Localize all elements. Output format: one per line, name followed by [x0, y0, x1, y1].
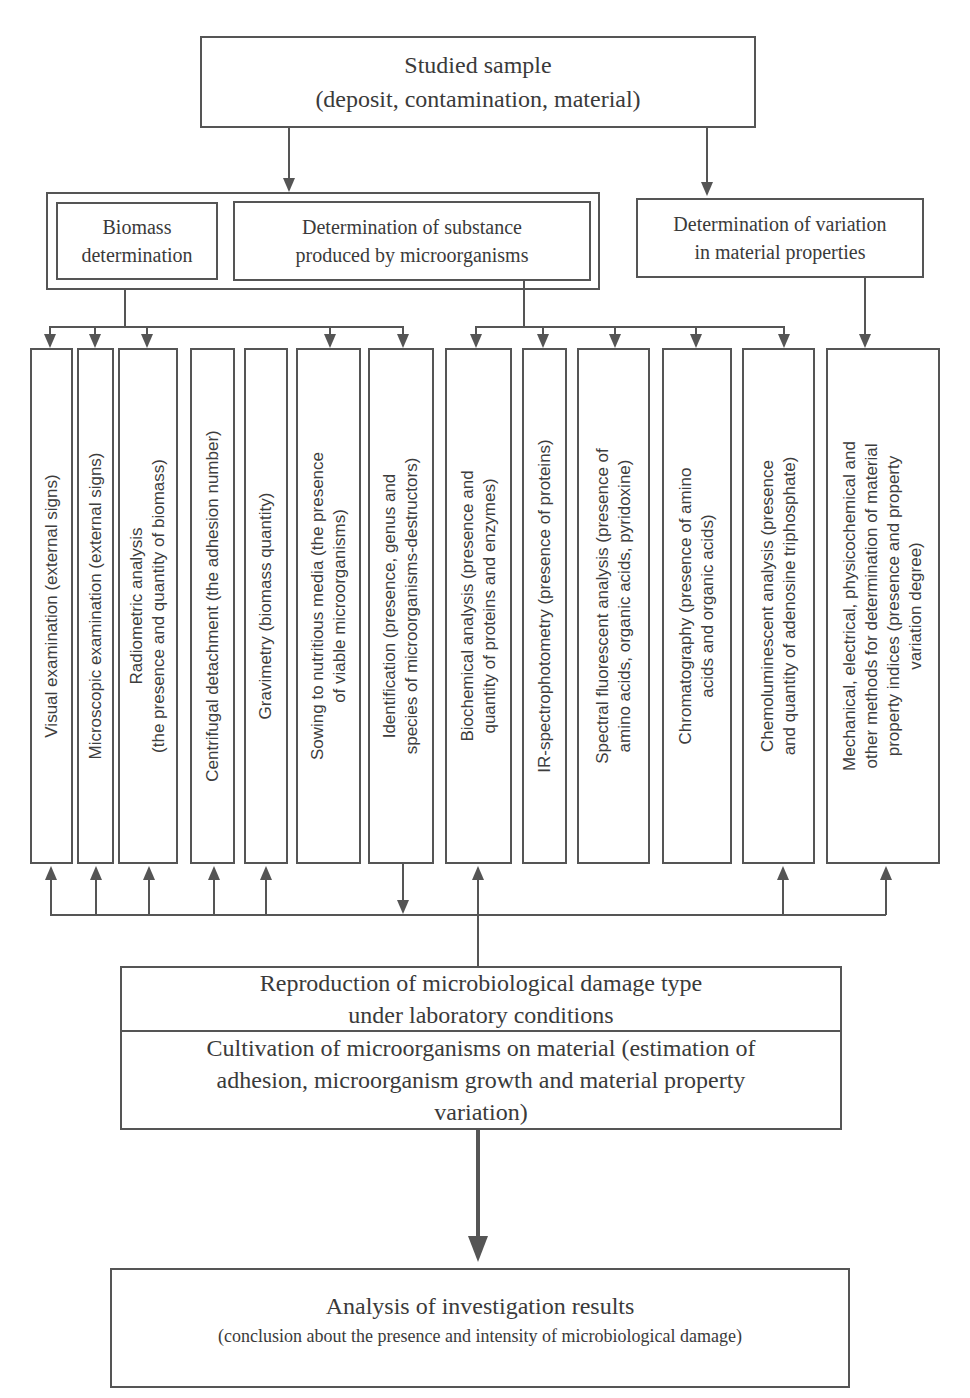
method-radiometric-analysis: Radiometric analysis (the presence and q… [118, 348, 178, 864]
arrow-down-icon [609, 334, 621, 348]
arrow-up-icon [45, 866, 57, 880]
connector [49, 326, 404, 328]
studied-sample-box: Studied sample (deposit, contamination, … [200, 36, 756, 128]
method-label: Radiometric analysis (the presence and q… [126, 356, 170, 856]
method-label: Visual examination (external signs) [41, 356, 63, 856]
arrow-down-icon [537, 334, 549, 348]
method-centrifugal-detachment: Centrifugal detachment (the adhesion num… [190, 348, 235, 864]
method-label: Identification (presence, genus and spec… [379, 356, 423, 856]
variation-determination-box: Determination of variation in material p… [636, 198, 924, 278]
biomass-determination-label: Biomass determination [81, 213, 192, 269]
method-chromatography: Chromatography (presence of amino acids … [662, 348, 732, 864]
arrow-down-icon [44, 334, 56, 348]
connector [288, 128, 290, 178]
arrow-down-icon [778, 334, 790, 348]
method-label: IR-spectrophotometry (presence of protei… [534, 356, 556, 856]
arrow-up-icon [260, 866, 272, 880]
method-label: Chromatography (presence of amino acids … [675, 356, 719, 856]
connector [475, 326, 785, 328]
connector [476, 1130, 480, 1242]
arrow-up-icon [90, 866, 102, 880]
reproduction-box: Reproduction of microbiological damage t… [120, 966, 842, 1032]
method-mechanical-electrical: Mechanical, electrical, physicochemical … [826, 348, 940, 864]
method-chemoluminescent: Chemoluminescent analysis (presence and … [742, 348, 815, 864]
method-label: Biochemical analysis (presence and quant… [457, 356, 501, 856]
method-spectral-fluorescent: Spectral fluorescent analysis (presence … [577, 348, 650, 864]
arrow-down-icon [89, 334, 101, 348]
connector [885, 878, 887, 915]
arrow-down-icon [324, 334, 336, 348]
method-label: Centrifugal detachment (the adhesion num… [202, 356, 224, 856]
method-label: Mechanical, electrical, physicochemical … [839, 356, 927, 856]
arrow-up-icon [208, 866, 220, 880]
cultivation-box: Cultivation of microorganisms on materia… [120, 1030, 842, 1130]
method-label: Gravimetry (biomass quantity) [255, 356, 277, 856]
arrow-down-icon [141, 334, 153, 348]
method-sowing-nutritious-media: Sowing to nutritious media (the presence… [296, 348, 361, 864]
variation-determination-label: Determination of variation in material p… [673, 210, 886, 266]
cultivation-label: Cultivation of microorganisms on materia… [207, 1032, 756, 1128]
arrow-down-icon [470, 334, 482, 348]
analysis-results-subtitle: (conclusion about the presence and inten… [218, 1323, 742, 1349]
connector [706, 128, 708, 182]
method-identification: Identification (presence, genus and spec… [368, 348, 434, 864]
arrow-up-icon [472, 866, 484, 880]
method-label: Microscopic examination (external signs) [85, 356, 107, 856]
studied-sample-subtitle: (deposit, contamination, material) [315, 82, 640, 116]
method-label: Spectral fluorescent analysis (presence … [592, 356, 636, 856]
connector [782, 878, 784, 915]
connector [402, 864, 404, 900]
connector [265, 878, 267, 915]
method-biochemical-analysis: Biochemical analysis (presence and quant… [445, 348, 512, 864]
method-ir-spectrophotometry: IR-spectrophotometry (presence of protei… [522, 348, 567, 864]
reproduction-label: Reproduction of microbiological damage t… [260, 967, 703, 1031]
connector [50, 878, 52, 915]
arrow-down-icon [468, 1236, 488, 1262]
arrow-down-icon [690, 334, 702, 348]
arrow-down-icon [397, 334, 409, 348]
arrow-down-icon [859, 334, 871, 348]
connector [864, 278, 866, 334]
analysis-results-box: Analysis of investigation results (concl… [110, 1268, 850, 1388]
arrow-down-icon [283, 178, 295, 192]
connector [124, 290, 126, 328]
connector [477, 878, 479, 966]
substance-determination-label: Determination of substance produced by m… [296, 213, 529, 269]
method-label: Chemoluminescent analysis (presence and … [757, 356, 801, 856]
connector [523, 281, 525, 328]
method-gravimetry: Gravimetry (biomass quantity) [244, 348, 288, 864]
feedback-bus [50, 914, 886, 916]
biomass-determination-box: Biomass determination [56, 202, 218, 280]
studied-sample-title: Studied sample [404, 48, 551, 82]
method-label: Sowing to nutritious media (the presence… [307, 356, 351, 856]
connector [148, 878, 150, 915]
arrow-up-icon [880, 866, 892, 880]
method-microscopic-examination: Microscopic examination (external signs) [77, 348, 114, 864]
connector [95, 878, 97, 915]
analysis-results-title: Analysis of investigation results [326, 1289, 635, 1323]
arrow-up-icon [143, 866, 155, 880]
method-visual-examination: Visual examination (external signs) [30, 348, 73, 864]
arrow-up-icon [777, 866, 789, 880]
substance-determination-box: Determination of substance produced by m… [233, 201, 591, 281]
arrow-down-icon [397, 900, 409, 914]
connector [213, 878, 215, 915]
arrow-down-icon [701, 182, 713, 196]
